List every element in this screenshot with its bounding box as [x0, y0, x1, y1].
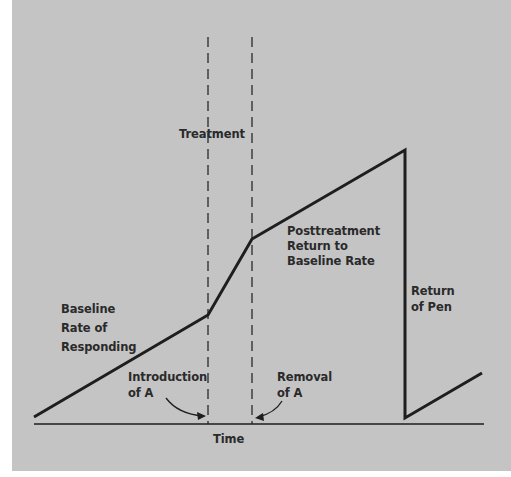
- removal-label-line-2: of A: [277, 386, 302, 401]
- treatment-label: Treatment: [179, 127, 245, 142]
- removal-arrowhead-icon: [255, 413, 264, 421]
- baseline-label-line-3: Responding: [61, 340, 136, 355]
- return-of-pen-label-line-2: of Pen: [411, 300, 452, 315]
- baseline-label-line-2: Rate of: [61, 321, 107, 336]
- cumulative-record-diagram: [0, 0, 511, 477]
- introduction-label-line-1: Introduction: [128, 370, 207, 385]
- posttreatment-label-line-2: Return to: [287, 239, 348, 254]
- return-of-pen-label-line-1: Return: [411, 284, 455, 299]
- introduction-arrowhead-icon: [197, 412, 206, 420]
- posttreatment-label-line-1: Posttreatment: [287, 224, 380, 239]
- baseline-label-line-1: Baseline: [61, 302, 115, 317]
- posttreatment-label-line-3: Baseline Rate: [287, 254, 375, 269]
- removal-label-line-1: Removal: [277, 370, 332, 385]
- introduction-label-line-2: of A: [128, 386, 153, 401]
- x-axis-label: Time: [213, 432, 244, 447]
